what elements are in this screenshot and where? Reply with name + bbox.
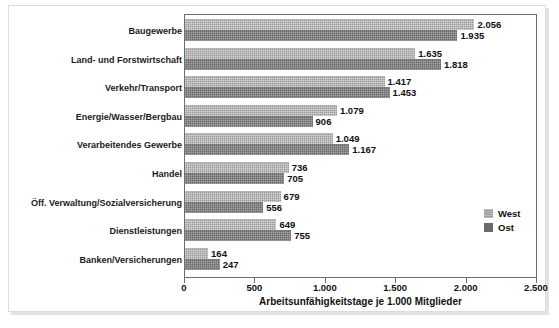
bar-west[interactable] [185, 19, 474, 30]
legend-item-ost[interactable]: Ost [484, 220, 521, 234]
bar-value-label: 1.049 [336, 133, 360, 144]
legend-swatch-west-icon [484, 209, 493, 218]
category-label: Baugewerbe [12, 26, 182, 36]
bar-west[interactable] [185, 105, 337, 116]
bar-value-label: 736 [292, 162, 308, 173]
bar-value-label: 164 [211, 248, 227, 259]
bar-value-label: 1.167 [352, 144, 376, 155]
bar-value-label: 705 [287, 173, 303, 184]
x-tick-label: 500 [246, 282, 262, 293]
legend-label-ost: Ost [498, 222, 514, 233]
bar-value-label: 556 [266, 202, 282, 213]
bar-ost[interactable] [185, 59, 441, 70]
bar-ost[interactable] [185, 173, 284, 184]
category-label: Banken/Versicherungen [12, 255, 182, 265]
x-tick-label: 2.000 [454, 282, 478, 293]
chart-legend: West Ost [484, 206, 521, 234]
bar-value-label: 1.818 [444, 59, 468, 70]
bar-west[interactable] [185, 133, 333, 144]
bar-value-label: 755 [294, 230, 310, 241]
category-axis-labels: BaugewerbeLand- und ForstwirtschaftVerke… [12, 14, 182, 278]
bar-ost[interactable] [185, 202, 263, 213]
x-tick-label: 1.500 [383, 282, 407, 293]
bars-layer: 2.0561.9351.6351.8181.4171.4531.0799061.… [185, 14, 537, 278]
category-label: Verarbeitendes Gewerbe [12, 140, 182, 150]
bar-value-label: 1.635 [418, 48, 442, 59]
legend-swatch-ost-icon [484, 223, 493, 232]
bar-west[interactable] [185, 248, 208, 259]
x-tick-label: 2.500 [524, 282, 548, 293]
bar-ost[interactable] [185, 116, 313, 127]
category-label: Öff. Verwaltung/Sozialversicherung [12, 198, 182, 208]
chart-root: BaugewerbeLand- und ForstwirtschaftVerke… [0, 0, 559, 328]
category-label: Land- und Forstwirtschaft [12, 55, 182, 65]
bar-value-label: 649 [279, 219, 295, 230]
bar-value-label: 679 [284, 191, 300, 202]
legend-label-west: West [498, 208, 521, 219]
x-tick-label: 0 [181, 282, 186, 293]
category-label: Handel [12, 169, 182, 179]
legend-item-west[interactable]: West [484, 206, 521, 220]
bar-value-label: 1.935 [460, 30, 484, 41]
bar-ost[interactable] [185, 87, 390, 98]
bar-west[interactable] [185, 48, 415, 59]
bar-west[interactable] [185, 191, 281, 202]
bar-value-label: 2.056 [477, 19, 501, 30]
bar-west[interactable] [185, 76, 385, 87]
bar-west[interactable] [185, 219, 276, 230]
bar-value-label: 247 [223, 259, 239, 270]
bar-value-label: 906 [316, 116, 332, 127]
bar-ost[interactable] [185, 230, 291, 241]
x-tick-label: 1.000 [313, 282, 337, 293]
bar-ost[interactable] [185, 30, 457, 41]
bar-west[interactable] [185, 162, 289, 173]
bar-value-label: 1.417 [388, 76, 412, 87]
bar-ost[interactable] [185, 144, 349, 155]
bar-value-label: 1.079 [340, 105, 364, 116]
category-label: Energie/Wasser/Bergbau [12, 112, 182, 122]
x-axis-title: Arbeitsunfähigkeitstage je 1.000 Mitglie… [184, 296, 537, 307]
category-label: Verkehr/Transport [12, 83, 182, 93]
bar-ost[interactable] [185, 259, 220, 270]
bar-value-label: 1.453 [393, 87, 417, 98]
category-label: Dienstleistungen [12, 226, 182, 236]
x-axis-tick-labels: 05001.0001.5002.0002.500 [0, 282, 559, 296]
